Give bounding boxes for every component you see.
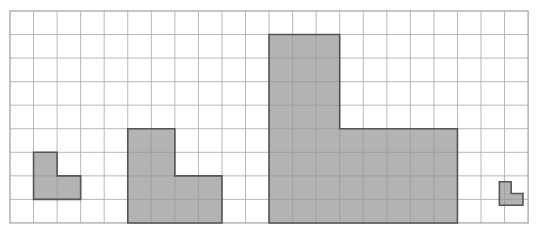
diagram-canvas <box>0 0 540 239</box>
grid-shapes-svg <box>0 0 540 239</box>
